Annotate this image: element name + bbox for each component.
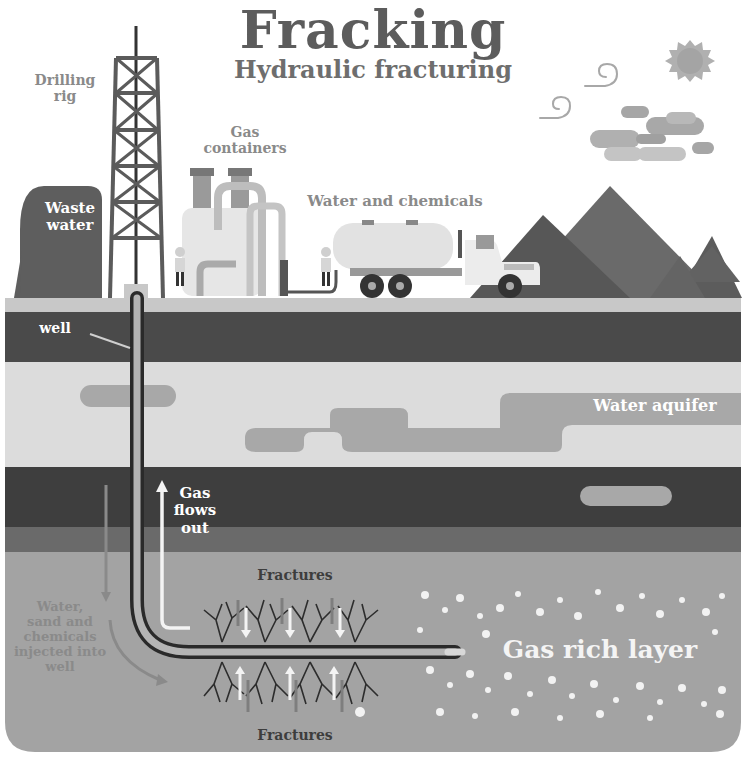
label-fractures-bottom: Fractures — [235, 727, 355, 743]
label-drilling-rig: Drilling rig — [20, 72, 110, 104]
worker-icon — [321, 247, 331, 286]
underground-layers — [0, 298, 746, 762]
label-water-aquifer: Water aquifer — [585, 397, 725, 415]
worker-icon — [175, 247, 185, 286]
label-gas-flows-out: Gas flows out — [170, 485, 220, 537]
page-subtitle: Hydraulic fracturing — [0, 56, 746, 84]
label-gas-containers: Gas containers — [190, 124, 300, 156]
label-water-and-chemicals: Water and chemicals — [300, 193, 490, 210]
label-fractures-top: Fractures — [235, 567, 355, 583]
label-well: well — [30, 320, 80, 336]
page-title: Fracking — [0, 0, 746, 60]
gas-containers — [182, 168, 336, 296]
label-waste-water: Waste water — [30, 200, 110, 235]
label-gas-rich-layer: Gas rich layer — [500, 636, 700, 665]
label-injection: Water, sand and chemicals injected into … — [10, 600, 110, 675]
cloud-icon — [590, 106, 714, 161]
